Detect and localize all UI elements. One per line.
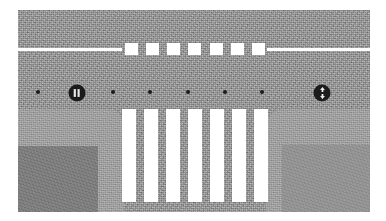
survey-point[interactable]: [260, 90, 264, 94]
dash-segment: [125, 43, 138, 55]
crosswalk-stripe: [210, 109, 224, 202]
dash-segment: [210, 43, 223, 55]
crosswalk-stripe: [188, 109, 202, 202]
lane-line-solid-right: [267, 48, 370, 51]
survey-point[interactable]: [223, 90, 227, 94]
dash-segment: [146, 43, 159, 55]
survey-point[interactable]: [148, 90, 152, 94]
crosswalk-stripe: [254, 109, 268, 202]
lane-line-dashes: [125, 43, 265, 55]
sidewalk-left: [18, 109, 124, 212]
dash-segment: [231, 43, 244, 55]
crosswalk-stripe: [232, 109, 246, 202]
crosswalk-stripe: [144, 109, 158, 202]
crosswalk-stripe: [166, 109, 180, 202]
survey-point[interactable]: [186, 90, 190, 94]
crosswalk-stripe: [122, 109, 136, 202]
lane-line-solid-left: [18, 48, 122, 51]
screenshot-root: [0, 0, 386, 221]
survey-point[interactable]: [36, 90, 40, 94]
intersection-scene: [18, 10, 370, 212]
sidewalk-right: [266, 109, 370, 212]
survey-point[interactable]: [111, 90, 115, 94]
building-right: [282, 145, 370, 212]
crosswalk: [122, 109, 268, 202]
building-left: [18, 146, 98, 212]
dash-segment: [167, 43, 180, 55]
dash-segment: [188, 43, 201, 55]
traffic-signal-icon[interactable]: [69, 85, 86, 102]
two-way-arrow-icon[interactable]: [314, 85, 331, 102]
dash-segment: [252, 43, 265, 55]
